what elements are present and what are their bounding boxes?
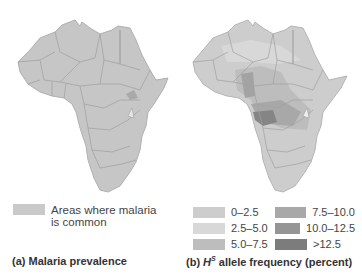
legend-swatch (193, 223, 225, 234)
legend-label: 0–2.5 (231, 206, 259, 218)
caption-prefix: (b) (186, 256, 203, 268)
legend-label: 5.0–7.5 (231, 238, 268, 250)
legend-swatch (193, 207, 225, 218)
legend-label: >12.5 (313, 238, 341, 250)
legend-item: 7.5–10.0 (275, 206, 355, 218)
caption-a: (a) Malaria prevalence (12, 255, 127, 267)
legend-item: >12.5 (275, 238, 355, 250)
malaria-legend-swatch (13, 204, 45, 215)
legend-label: 7.5–10.0 (312, 206, 355, 218)
legend-item: 10.0–12.5 (275, 222, 355, 234)
legend-swatch (275, 239, 307, 250)
malaria-legend: Areas where malaria is common (13, 204, 156, 228)
panel-hs-allele-frequency: 0–2.5 7.5–10.0 2.5–5.0 10.0–12.5 5.0–7.5… (181, 0, 362, 278)
malaria-legend-line2: is common (51, 216, 156, 228)
caption-b: (b) HS allele frequency (percent) (186, 255, 352, 268)
malaria-legend-line1: Areas where malaria (51, 204, 156, 216)
legend-swatch (275, 223, 300, 234)
caption-h: H (203, 256, 211, 268)
legend-item: 0–2.5 (193, 206, 275, 218)
legend-item: 5.0–7.5 (193, 238, 275, 250)
africa-map-malaria (0, 0, 181, 200)
legend-label: 2.5–5.0 (231, 222, 268, 234)
caption-suffix: allele frequency (percent) (216, 256, 352, 268)
legend-swatch (275, 207, 306, 218)
allele-frequency-legend: 0–2.5 7.5–10.0 2.5–5.0 10.0–12.5 5.0–7.5… (193, 206, 355, 250)
legend-swatch (193, 239, 225, 250)
africa-map-allele (181, 0, 362, 200)
legend-item: 2.5–5.0 (193, 222, 275, 234)
legend-label: 10.0–12.5 (306, 222, 355, 234)
panel-malaria-prevalence: Areas where malaria is common (a) Malari… (0, 0, 181, 278)
